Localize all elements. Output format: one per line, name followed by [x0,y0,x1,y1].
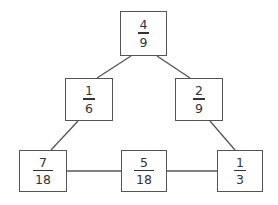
denominator: 9 [138,34,150,49]
denominator: 18 [33,171,53,186]
numerator: 1 [234,156,246,170]
numerator: 7 [37,156,49,170]
node-top: 4 9 [120,11,167,56]
denominator: 6 [83,100,95,115]
numerator: 4 [138,18,150,32]
edge-top-to-mid-left [97,56,131,78]
fraction: 4 9 [138,18,150,48]
node-mid-left: 1 6 [65,78,113,121]
fraction: 2 9 [193,84,205,114]
numerator: 2 [193,84,205,98]
fraction: 7 18 [33,156,53,186]
edge-mid-right-to-bottom-right [210,121,235,150]
edge-mid-left-to-bottom-left [51,121,78,150]
node-bottom-middle: 5 18 [121,150,167,192]
numerator: 5 [138,156,150,170]
fraction-triangle-diagram: 4 9 1 6 2 9 7 18 5 18 [0,0,278,205]
denominator: 9 [193,100,205,115]
fraction: 5 18 [134,156,154,186]
fraction: 1 3 [234,156,246,186]
node-mid-right: 2 9 [175,78,223,121]
denominator: 3 [234,171,246,186]
denominator: 18 [134,171,154,186]
fraction: 1 6 [83,84,95,114]
node-bottom-left: 7 18 [19,150,67,192]
edge-top-to-mid-right [157,56,190,78]
node-bottom-right: 1 3 [217,150,263,192]
numerator: 1 [83,84,95,98]
